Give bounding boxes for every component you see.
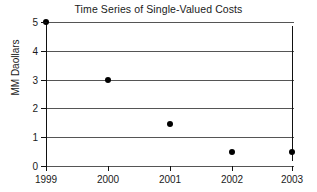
x-tick-1999 [46,166,47,171]
plot-area [46,22,294,166]
y-tick-label-1: 1 [16,137,38,138]
y-tick-label-0: 0 [16,166,38,167]
gridline-5 [46,22,294,23]
gridline-1 [46,137,294,138]
y-tick-1 [41,137,47,138]
y-tick-label-5: 5 [16,22,38,23]
error-bar-2003 [292,26,293,161]
x-tick-label-2001: 2001 [148,174,192,185]
x-tick-2000 [108,166,109,171]
data-point-2003 [289,149,295,155]
gridline-2 [46,108,294,109]
y-tick-5 [41,22,47,23]
y-axis-label: MM Daollars [10,21,21,115]
gridline-4 [46,51,294,52]
y-tick-4 [41,51,47,52]
x-tick-2001 [170,166,171,171]
gridline-3 [46,80,294,81]
data-point-2001 [167,121,173,127]
x-tick-2002 [232,166,233,171]
y-tick-label-4: 4 [16,51,38,52]
x-tick-label-2003: 2003 [270,174,314,185]
chart-figure: Time Series of Single-Valued Costs MM Da… [0,0,317,192]
x-tick-2003 [292,166,293,171]
x-tick-label-2000: 2000 [86,174,130,185]
x-tick-label-1999: 1999 [24,174,68,185]
data-point-2002 [229,149,235,155]
y-tick-2 [41,108,47,109]
data-point-2000 [105,77,111,83]
chart-title: Time Series of Single-Valued Costs [0,3,317,15]
x-tick-label-2002: 2002 [210,174,254,185]
y-tick-label-3: 3 [16,80,38,81]
y-tick-label-2: 2 [16,108,38,109]
y-tick-3 [41,80,47,81]
